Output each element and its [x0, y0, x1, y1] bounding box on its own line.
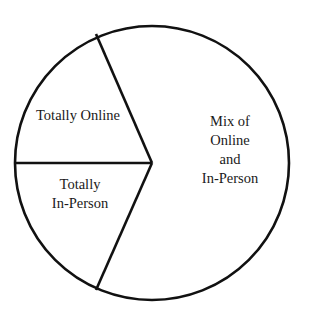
label-line: and: [180, 150, 280, 169]
label-line: Online: [180, 131, 280, 150]
label-line: Totally Online: [32, 106, 124, 125]
label-line: In-Person: [180, 169, 280, 188]
label-line: In-Person: [40, 194, 120, 213]
slice-label-mix: Mix of Online and In-Person: [180, 112, 280, 188]
slice-label-totally-in-person: Totally In-Person: [40, 175, 120, 213]
slice-label-totally-online: Totally Online: [32, 106, 124, 125]
label-line: Totally: [40, 175, 120, 194]
label-line: Mix of: [180, 112, 280, 131]
